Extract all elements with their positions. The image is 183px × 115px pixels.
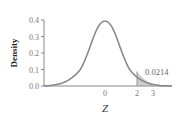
xtick-label-2: 2	[135, 89, 139, 98]
ytick-label-1: 0.1	[29, 66, 39, 75]
ytick-label-0: 0.0	[29, 82, 39, 91]
xtick-label-0: 0	[103, 89, 107, 98]
normal-density-chart: 0.0 0.1 0.2 0.3 0.4 Density 0 2 3 Z 0.02…	[0, 0, 183, 115]
ytick-label-2: 0.2	[29, 49, 39, 58]
ytick-label-4: 0.4	[29, 16, 39, 25]
xtick-label-3: 3	[151, 89, 155, 98]
x-axis-title: Z	[102, 102, 109, 114]
ytick-label-3: 0.3	[29, 33, 39, 42]
tail-area-annotation: 0.0214	[145, 67, 169, 77]
y-axis-title: Density	[9, 38, 19, 67]
